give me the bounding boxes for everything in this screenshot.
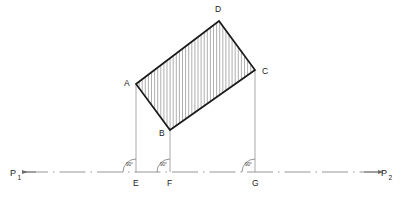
angle-arcs — [123, 159, 255, 172]
force-label-p2: P — [381, 168, 387, 178]
rectangle-outline — [136, 21, 255, 130]
hatch-fill — [136, 19, 254, 132]
projection-lines — [136, 70, 255, 172]
base-point-label-g: G — [252, 178, 259, 188]
angle-label-e: 90° — [126, 162, 133, 167]
angle-label-g: 90° — [245, 162, 252, 167]
base-point-label-f: F — [167, 178, 172, 188]
vertex-label-b: B — [159, 128, 165, 138]
base-point-label-e: E — [133, 178, 139, 188]
technical-diagram: 90° 90° 90° A D C B E F G P 1 P 2 — [0, 0, 402, 197]
angle-label-f: 90° — [160, 162, 167, 167]
vertex-label-c: C — [262, 66, 268, 76]
vertex-label-d: D — [215, 4, 221, 14]
force-subscript-p1: 1 — [18, 174, 22, 181]
diagram-canvas: 90° 90° 90° A D C B E F G P 1 P 2 — [0, 0, 402, 197]
force-subscript-p2: 2 — [389, 174, 393, 181]
vertex-label-a: A — [124, 78, 130, 88]
force-label-p1: P — [10, 168, 16, 178]
